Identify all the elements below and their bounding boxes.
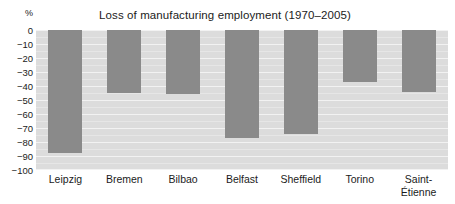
y-axis-tick: −20 xyxy=(0,53,33,64)
x-axis-tick: Bremen xyxy=(95,173,154,186)
y-axis-tick: −70 xyxy=(0,123,33,134)
x-axis-tick-line2: Étienne xyxy=(389,186,448,199)
bar xyxy=(284,30,318,134)
y-axis-tick: −40 xyxy=(0,81,33,92)
bars-layer xyxy=(36,30,448,170)
x-axis-tick-labels: LeipzigBremenBilbaoBelfastSheffieldTorin… xyxy=(36,173,448,204)
y-axis-tick: −30 xyxy=(0,67,33,78)
y-axis-tick: −80 xyxy=(0,137,33,148)
chart-figure: Loss of manufacturing employment (1970–2… xyxy=(0,0,455,204)
y-axis-unit-label: % xyxy=(0,8,33,18)
bar xyxy=(107,30,141,93)
bar xyxy=(225,30,259,138)
x-axis-tick: Bilbao xyxy=(154,173,213,186)
x-axis-tick: Sheffield xyxy=(271,173,330,186)
x-axis-tick: Torino xyxy=(330,173,389,186)
bar xyxy=(343,30,377,82)
y-axis-tick: 0 xyxy=(0,25,33,36)
y-axis-tick: −90 xyxy=(0,151,33,162)
bar xyxy=(48,30,82,153)
y-axis-tick: −100 xyxy=(0,165,33,176)
x-axis-tick: Saint-Étienne xyxy=(389,173,448,199)
x-axis-tick: Belfast xyxy=(213,173,272,186)
plot-area xyxy=(36,30,448,170)
x-axis-tick: Leipzig xyxy=(36,173,95,186)
y-axis-tick: −60 xyxy=(0,109,33,120)
bar xyxy=(166,30,200,94)
y-axis-tick: −10 xyxy=(0,39,33,50)
bar xyxy=(402,30,436,92)
y-axis-tick-labels: 0−10−20−30−40−50−60−70−80−90−100 xyxy=(0,30,33,170)
chart-title: Loss of manufacturing employment (1970–2… xyxy=(40,9,410,21)
y-axis-tick: −50 xyxy=(0,95,33,106)
